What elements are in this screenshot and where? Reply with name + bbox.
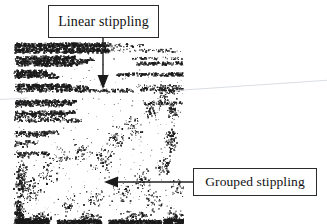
scanner-streak-right [176, 80, 327, 91]
stippling-figure: Linear stippling Grouped stippling [0, 0, 327, 224]
callout-box-grouped-stippling: Grouped stippling [193, 168, 317, 196]
scanned-document-region [12, 39, 184, 224]
callout-label-grouped-stippling: Grouped stippling [205, 174, 305, 190]
stipple-texture-canvas [12, 39, 184, 224]
callout-label-linear-stippling: Linear stippling [58, 14, 149, 30]
callout-box-linear-stippling: Linear stippling [48, 5, 159, 38]
